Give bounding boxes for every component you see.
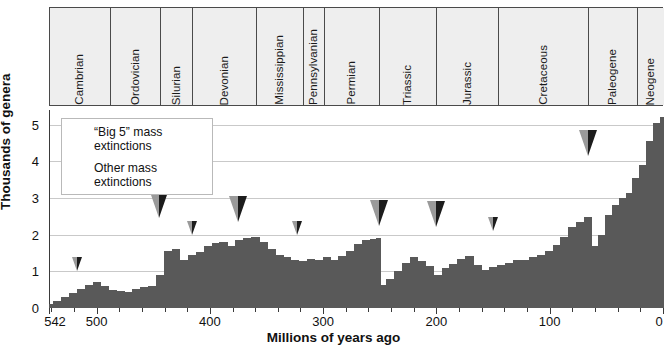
geologic-period-band: CambrianOrdovicianSilurianDevonianMissis… xyxy=(49,7,663,106)
other-extinction-marker xyxy=(292,221,302,235)
x-tick-label: 300 xyxy=(312,314,334,329)
area-segment xyxy=(660,117,664,308)
period-label: Ordovician xyxy=(130,44,142,105)
x-tick-minor xyxy=(391,308,392,312)
x-tick-minor xyxy=(572,308,573,312)
period-label: Cretaceous xyxy=(538,40,550,105)
period-cell-pennsylvanian: Pennsylvanian xyxy=(304,8,326,105)
x-tick-minor xyxy=(187,308,188,312)
y-tick-label: 3 xyxy=(32,191,39,206)
period-cell-permian: Permian xyxy=(325,8,379,105)
y-tick-label: 2 xyxy=(32,227,39,242)
x-axis-title: Millions of years ago xyxy=(0,330,667,345)
period-label: Permian xyxy=(346,56,358,105)
x-tick-minor xyxy=(346,308,347,312)
period-label: Devonian xyxy=(219,51,231,105)
other-extinction-marker xyxy=(488,217,498,231)
x-tick-minor xyxy=(459,308,460,312)
chart-root: CambrianOrdovicianSilurianDevonianMissis… xyxy=(0,0,667,347)
y-tick-label: 1 xyxy=(32,264,39,279)
x-tick-minor xyxy=(233,308,234,312)
y-tick-label: 5 xyxy=(32,117,39,132)
legend: “Big 5” mass extinctions Other mass exti… xyxy=(61,118,213,195)
period-label: Triassic xyxy=(402,60,414,105)
period-label: Cambrian xyxy=(74,49,86,105)
period-cell-mississippian: Mississippian xyxy=(257,8,303,105)
legend-item-big5: “Big 5” mass extinctions xyxy=(68,125,162,154)
period-label: Neogene xyxy=(645,53,657,105)
x-tick-minor xyxy=(142,308,143,312)
x-tick-minor xyxy=(255,308,256,312)
legend-label-other: Other mass extinctions xyxy=(94,161,157,189)
period-label: Silurian xyxy=(171,61,183,105)
other-extinction-marker xyxy=(187,221,197,235)
x-tick-minor xyxy=(482,308,483,312)
y-axis-labels: 012345 xyxy=(0,110,45,308)
big5-triangle-icon xyxy=(68,125,94,154)
x-tick-minor xyxy=(119,308,120,312)
x-tick-minor xyxy=(595,308,596,312)
big5-extinction-marker xyxy=(370,200,388,226)
x-tick-minor xyxy=(504,308,505,312)
period-cell-triassic: Triassic xyxy=(380,8,438,105)
x-tick-label: 542 xyxy=(44,314,66,329)
x-tick-minor xyxy=(278,308,279,312)
big5-extinction-marker xyxy=(229,196,247,222)
period-cell-cambrian: Cambrian xyxy=(50,8,111,105)
x-tick-label: 500 xyxy=(86,314,108,329)
x-tick-label: 100 xyxy=(539,314,561,329)
big5-extinction-marker xyxy=(150,192,168,218)
x-tick-minor xyxy=(74,308,75,312)
x-tick-minor xyxy=(527,308,528,312)
legend-label-big5: “Big 5” mass extinctions xyxy=(94,125,162,153)
period-cell-neogene: Neogene xyxy=(638,8,664,105)
x-tick-minor xyxy=(618,308,619,312)
period-cell-devonian: Devonian xyxy=(193,8,258,105)
period-label: Paleogene xyxy=(607,44,619,105)
period-cell-jurassic: Jurassic xyxy=(437,8,498,105)
period-cell-silurian: Silurian xyxy=(161,8,193,105)
other-triangle-icon xyxy=(68,161,94,178)
period-cell-paleogene: Paleogene xyxy=(589,8,638,105)
big5-extinction-marker xyxy=(427,201,445,227)
x-tick-label: 0 xyxy=(655,314,662,329)
period-label: Jurassic xyxy=(462,57,474,105)
legend-item-other: Other mass extinctions xyxy=(68,161,157,189)
x-tick-minor xyxy=(414,308,415,312)
y-tick-label: 4 xyxy=(32,154,39,169)
x-tick-label: 200 xyxy=(426,314,448,329)
period-label: Mississippian xyxy=(274,30,286,105)
x-tick-minor xyxy=(368,308,369,312)
period-cell-cretaceous: Cretaceous xyxy=(499,8,590,105)
period-label: Pennsylvanian xyxy=(308,24,320,105)
x-tick-label: 400 xyxy=(199,314,221,329)
x-tick-minor xyxy=(51,308,52,312)
x-tick-minor xyxy=(300,308,301,312)
big5-extinction-marker xyxy=(579,130,597,156)
other-extinction-marker xyxy=(72,257,82,271)
x-tick-minor xyxy=(165,308,166,312)
period-cell-ordovician: Ordovician xyxy=(111,8,161,105)
x-tick-minor xyxy=(640,308,641,312)
